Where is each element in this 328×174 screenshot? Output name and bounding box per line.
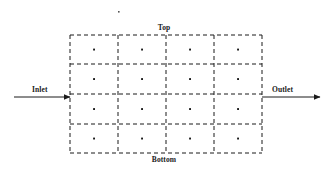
diagram-canvas: Top Bottom Inlet Outlet <box>0 0 328 174</box>
stray-speck <box>118 11 120 13</box>
boundary-label-outlet: Outlet <box>272 85 293 94</box>
boundary-label-top: Top <box>0 23 328 32</box>
boundary-label-inlet: Inlet <box>32 85 48 94</box>
boundary-label-bottom: Bottom <box>0 155 328 164</box>
